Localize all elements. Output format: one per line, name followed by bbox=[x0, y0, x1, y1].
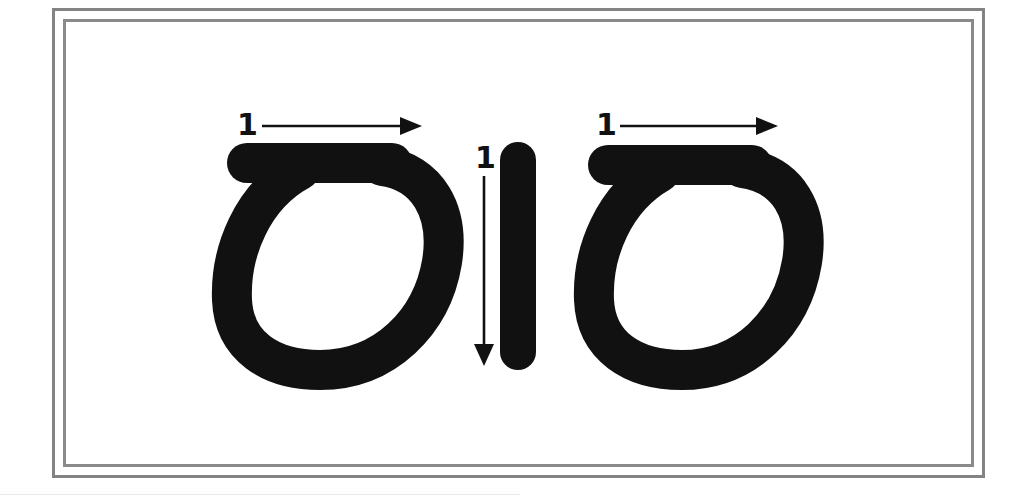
stroke-arrow-right bbox=[620, 117, 778, 135]
stroke-number-right: 1 bbox=[596, 110, 617, 140]
stroke-order-page: 1 1 1 bbox=[0, 0, 1034, 503]
stroke-number-middle: 1 bbox=[475, 143, 496, 173]
stroke-arrow-left bbox=[262, 117, 422, 135]
glyph-left-shape bbox=[232, 163, 444, 370]
glyph-right-shape bbox=[594, 165, 804, 370]
stroke-number-left: 1 bbox=[237, 110, 258, 140]
stroke-arrow-middle bbox=[474, 176, 494, 366]
glyph-art-layer bbox=[0, 0, 1034, 503]
